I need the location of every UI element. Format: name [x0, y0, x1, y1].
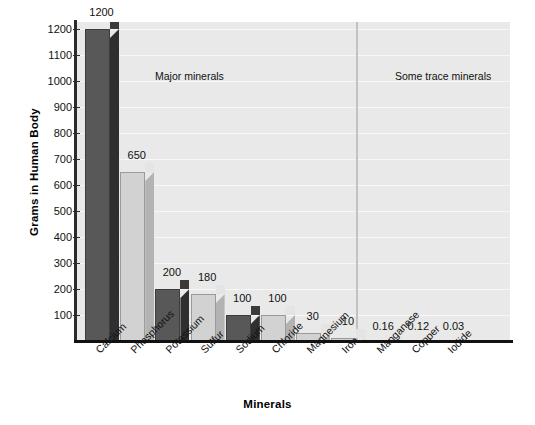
- bar-top-face: [356, 329, 365, 338]
- y-tick-label: 600: [30, 179, 72, 191]
- y-tick-label: 200: [30, 283, 72, 295]
- y-tick-mark: [73, 133, 80, 134]
- y-tick-mark: [73, 55, 80, 56]
- bar-value-label: 30: [307, 310, 319, 322]
- bar-value-label: 100: [233, 292, 251, 304]
- y-tick-mark: [73, 107, 80, 108]
- group-divider-line: [356, 22, 358, 341]
- y-tick-mark: [73, 185, 80, 186]
- y-tick-label: 1000: [30, 75, 72, 87]
- bar-side-face: [145, 172, 154, 341]
- y-axis-tick-labels: 100200300400500600700800900100011001200: [30, 0, 72, 425]
- y-tick-label: 500: [30, 205, 72, 217]
- y-tick-mark: [73, 237, 80, 238]
- y-tick-label: 900: [30, 101, 72, 113]
- bar-top-face: [251, 306, 260, 315]
- y-tick-mark: [73, 211, 80, 212]
- y-tick-label: 300: [30, 257, 72, 269]
- gridline: [77, 133, 510, 134]
- bar-phosphorus: [120, 172, 145, 341]
- x-axis-title: Minerals: [0, 398, 535, 410]
- bar-top-face: [286, 306, 295, 315]
- y-tick-mark: [73, 159, 80, 160]
- plot-area: Major minerals Some trace minerals: [77, 22, 510, 341]
- y-axis-line: [74, 20, 77, 343]
- bar-value-label: 200: [163, 266, 181, 278]
- gridline: [77, 29, 510, 30]
- bar-front-face: [120, 172, 145, 341]
- bar-calcium: [85, 29, 110, 341]
- y-tick-mark: [73, 315, 80, 316]
- bar-top-face: [110, 22, 119, 29]
- bar-value-label: 180: [198, 271, 216, 283]
- y-tick-label: 400: [30, 231, 72, 243]
- y-tick-label: 700: [30, 153, 72, 165]
- y-tick-label: 100: [30, 309, 72, 321]
- bar-top-face: [145, 163, 154, 172]
- section-label-trace-minerals: Some trace minerals: [395, 70, 491, 82]
- y-tick-mark: [73, 263, 80, 264]
- bar-value-label: 100: [268, 292, 286, 304]
- y-tick-label: 1100: [30, 49, 72, 61]
- bar-top-face: [216, 285, 225, 294]
- section-label-major-minerals: Major minerals: [155, 70, 224, 82]
- mineral-content-bar-chart: Grams in Human Body 10020030040050060070…: [0, 0, 535, 425]
- gridline: [77, 107, 510, 108]
- gridline: [77, 55, 510, 56]
- bar-value-label: 1200: [89, 6, 113, 18]
- y-tick-label: 800: [30, 127, 72, 139]
- bar-side-face: [110, 29, 119, 341]
- bar-value-label: 650: [128, 149, 146, 161]
- y-tick-mark: [73, 29, 80, 30]
- y-tick-mark: [73, 289, 80, 290]
- y-tick-label: 1200: [30, 23, 72, 35]
- bar-top-face: [180, 280, 189, 289]
- y-tick-mark: [73, 81, 80, 82]
- bar-front-face: [85, 29, 110, 341]
